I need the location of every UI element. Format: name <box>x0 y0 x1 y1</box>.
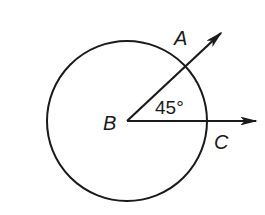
point-label-c: C <box>214 131 229 153</box>
point-label-b: B <box>103 112 116 134</box>
angle-diagram: A B C 45° <box>0 0 265 215</box>
point-label-a: A <box>173 27 187 49</box>
angle-measure-label: 45° <box>155 97 184 118</box>
